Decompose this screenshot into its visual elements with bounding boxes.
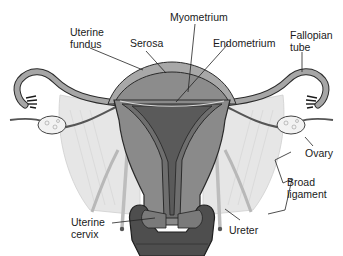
label-myometrium: Myometrium: [170, 11, 228, 23]
label-uterine-fundus: Uterine fundus: [70, 26, 104, 50]
label-broad-ligament: Broad ligament: [287, 176, 327, 200]
ovary-left: [38, 116, 66, 134]
label-uterine-cervix: Uterine cervix: [71, 216, 105, 240]
label-fallopian-tube: Fallopian tube: [290, 29, 333, 53]
label-ureter: Ureter: [229, 224, 258, 236]
label-endometrium: Endometrium: [213, 37, 275, 49]
label-serosa: Serosa: [130, 37, 163, 49]
label-ovary: Ovary: [305, 147, 333, 159]
ovary-right: [277, 116, 305, 134]
uterus-diagram: Uterine fundus Serosa Myometrium Endomet…: [0, 0, 343, 256]
